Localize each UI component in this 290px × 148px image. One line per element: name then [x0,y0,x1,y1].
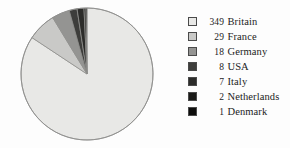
pie-chart-svg [18,4,158,146]
legend-label: 29France [203,31,257,43]
legend-label: 2Netherlands [203,91,279,103]
legend-country-name: France [228,31,257,42]
chart-legend: 349Britain29France18Germany8USA7Italy2Ne… [188,14,288,119]
legend-swatch-icon [188,62,197,71]
legend-label: 1Denmark [203,106,267,118]
legend-item-germany[interactable]: 18Germany [188,44,288,59]
legend-item-britain[interactable]: 349Britain [188,14,288,29]
legend-label: 7Italy [203,76,247,88]
legend-value: 7 [203,77,224,88]
legend-item-france[interactable]: 29France [188,29,288,44]
pie-chart-figure: 349Britain29France18Germany8USA7Italy2Ne… [0,0,290,148]
legend-label: 18Germany [203,46,267,58]
pie-slice-group [21,8,153,140]
legend-label: 349Britain [203,16,257,28]
legend-item-denmark[interactable]: 1Denmark [188,104,288,119]
legend-country-name: Italy [228,76,248,87]
legend-label: 8USA [203,61,249,73]
legend-country-name: Denmark [228,106,268,117]
legend-swatch-icon [188,92,197,101]
legend-item-netherlands[interactable]: 2Netherlands [188,89,288,104]
legend-swatch-icon [188,77,197,86]
legend-country-name: USA [228,61,249,72]
legend-value: 2 [203,92,224,103]
legend-country-name: Britain [228,16,258,27]
legend-value: 29 [203,32,224,43]
pie-chart-plot-area [18,4,158,146]
legend-value: 18 [203,47,224,58]
legend-country-name: Netherlands [228,91,280,102]
legend-item-italy[interactable]: 7Italy [188,74,288,89]
legend-value: 8 [203,62,224,73]
legend-value: 349 [203,17,224,28]
legend-swatch-icon [188,107,197,116]
legend-item-usa[interactable]: 8USA [188,59,288,74]
legend-value: 1 [203,107,224,118]
legend-swatch-icon [188,32,197,41]
legend-swatch-icon [188,17,197,26]
legend-swatch-icon [188,47,197,56]
legend-country-name: Germany [228,46,268,57]
